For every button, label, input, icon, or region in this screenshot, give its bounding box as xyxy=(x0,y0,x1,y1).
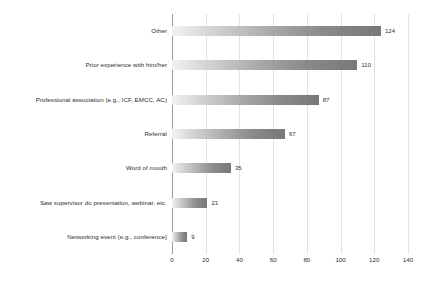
bar-track: 9 xyxy=(172,220,408,254)
bar[interactable] xyxy=(172,129,285,139)
bar-row: Word of mouth35 xyxy=(0,151,433,185)
bar-value-label: 9 xyxy=(191,233,194,241)
x-tick-label: 80 xyxy=(303,256,310,263)
bar[interactable] xyxy=(172,60,357,70)
category-label: Referral xyxy=(0,130,167,138)
bar-track: 35 xyxy=(172,151,408,185)
x-tick-label: 100 xyxy=(335,256,345,263)
category-label: Other xyxy=(0,27,167,35)
bar-value-label: 21 xyxy=(211,199,218,207)
bar-value-label: 67 xyxy=(289,130,296,138)
bar-rows: Other124Prior experience with him/her110… xyxy=(0,14,433,254)
bar[interactable] xyxy=(172,198,207,208)
bar[interactable] xyxy=(172,163,231,173)
category-label: Saw supervisor do presentation, webinar,… xyxy=(0,199,167,207)
bar-row: Other124 xyxy=(0,14,433,48)
bar-row: Professional association (e.g., ICF, EMC… xyxy=(0,83,433,117)
bar-track: 110 xyxy=(172,48,408,82)
bar[interactable] xyxy=(172,232,187,242)
bar-value-label: 124 xyxy=(385,27,395,35)
category-label: Prior experience with him/her xyxy=(0,61,167,69)
category-label: Networking event (e.g., conference) xyxy=(0,233,167,241)
x-tick-label: 120 xyxy=(369,256,379,263)
bar-chart: Other124Prior experience with him/her110… xyxy=(0,0,433,286)
category-label: Word of mouth xyxy=(0,164,167,172)
bar-row: Networking event (e.g., conference)9 xyxy=(0,220,433,254)
bar-row: Referral67 xyxy=(0,117,433,151)
x-tick-label: 0 xyxy=(170,256,173,263)
x-tick-label: 140 xyxy=(403,256,413,263)
category-label: Professional association (e.g., ICF, EMC… xyxy=(0,96,167,104)
x-tick-label: 20 xyxy=(202,256,209,263)
bar-value-label: 87 xyxy=(323,96,330,104)
bar[interactable] xyxy=(172,95,319,105)
x-tick-label: 60 xyxy=(270,256,277,263)
bar[interactable] xyxy=(172,26,381,36)
bar-row: Prior experience with him/her110 xyxy=(0,48,433,82)
bar-track: 67 xyxy=(172,117,408,151)
x-axis-ticks: 020406080100120140 xyxy=(172,256,408,272)
bar-track: 21 xyxy=(172,185,408,219)
bar-value-label: 35 xyxy=(235,164,242,172)
bar-row: Saw supervisor do presentation, webinar,… xyxy=(0,185,433,219)
bar-track: 87 xyxy=(172,83,408,117)
x-tick-label: 40 xyxy=(236,256,243,263)
bar-value-label: 110 xyxy=(361,61,371,69)
bar-track: 124 xyxy=(172,14,408,48)
